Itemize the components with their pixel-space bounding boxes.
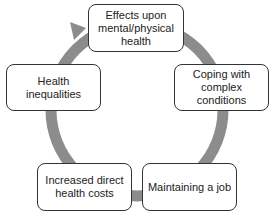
node-label: Health inequalities xyxy=(9,75,98,101)
node-label: Effects upon mental/physical health xyxy=(91,9,181,48)
node-label: Coping with complex conditions xyxy=(177,68,266,107)
cycle-diagram: Effects upon mental/physical health Copi… xyxy=(0,0,273,216)
node-maintaining-job: Maintaining a job xyxy=(142,163,237,211)
node-health-inequalities: Health inequalities xyxy=(6,64,101,111)
node-direct-health-costs: Increased direct health costs xyxy=(37,163,132,211)
node-coping-conditions: Coping with complex conditions xyxy=(174,64,269,111)
node-label: Increased direct health costs xyxy=(40,174,129,200)
node-label: Maintaining a job xyxy=(148,181,231,194)
node-effects-health: Effects upon mental/physical health xyxy=(88,4,184,52)
